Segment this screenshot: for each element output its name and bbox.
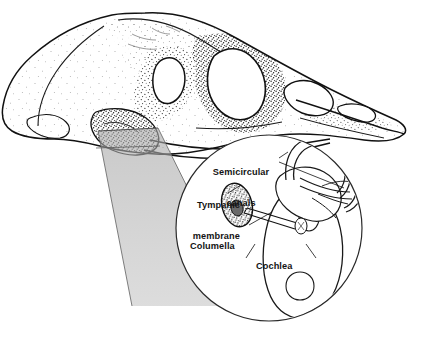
label-semicircular-canals-line1: Semicircular xyxy=(205,167,277,177)
label-columella-line1: Columella xyxy=(190,241,248,251)
anatomy-figure: Semicircular canals Tympanic membrane Co… xyxy=(0,0,425,340)
label-columella: Columella xyxy=(190,220,248,272)
bird-skull xyxy=(0,0,425,170)
label-tympanic-membrane-line1: Tympanic xyxy=(174,200,240,210)
label-cochlea: Cochlea xyxy=(256,240,304,292)
label-cochlea-line1: Cochlea xyxy=(256,261,304,271)
